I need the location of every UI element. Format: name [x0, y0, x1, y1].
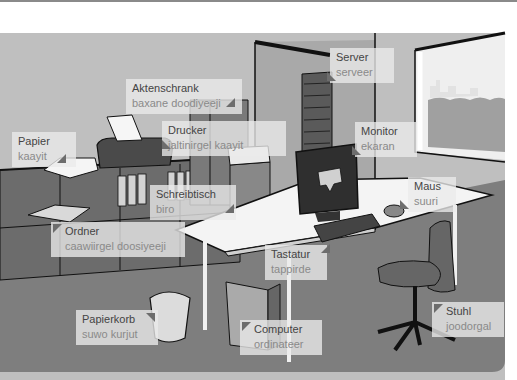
label-somali: ordinateer [246, 337, 316, 352]
label-somali: jaltinirgel kaayit [168, 138, 280, 153]
pointer-marker-icon [327, 72, 336, 81]
label-tastatur: Tastatur tappirde [265, 245, 327, 280]
label-drucker: Drucker jaltinirgel kaayit [162, 121, 286, 156]
label-german: Maus [414, 179, 450, 194]
label-ordner: Ordner caawiirgel doosiyeeji [51, 222, 185, 257]
label-german: Papier [18, 134, 70, 149]
label-somali: suwo kurjut [82, 327, 152, 342]
office-scene: Server serveer Aktenschrank baxane doodi… [0, 0, 517, 380]
label-german: Monitor [361, 124, 411, 139]
pointer-marker-icon [352, 146, 361, 155]
pointer-marker-icon [226, 98, 235, 107]
pointer-marker-icon [53, 224, 62, 233]
pointer-marker-icon [146, 313, 155, 322]
label-german: Schreibtisch [156, 187, 230, 202]
label-server: Server serveer [330, 48, 394, 83]
label-somali: joodorgal [438, 319, 498, 334]
label-aktenschrank: Aktenschrank baxane doodiyeeji [126, 79, 242, 114]
label-papier: Papier kaayit [12, 132, 76, 167]
pointer-marker-icon [225, 204, 234, 213]
label-german: Stuhl [438, 304, 498, 319]
label-somali: caawiirgel doosiyeeji [57, 239, 179, 254]
label-somali: serveer [336, 65, 388, 80]
label-somali: suuri [414, 194, 450, 209]
pointer-marker-icon [321, 244, 330, 253]
label-somali: baxane doodiyeeji [132, 96, 236, 111]
pointer-marker-icon [242, 322, 251, 331]
label-german: Drucker [168, 123, 280, 138]
label-german: Server [336, 50, 388, 65]
label-monitor: Monitor ekaran [355, 122, 417, 157]
pointer-marker-icon [400, 200, 409, 209]
label-somali: biro [156, 202, 230, 217]
label-german: Papierkorb [82, 312, 152, 327]
pointer-marker-icon [162, 140, 171, 149]
label-german: Computer [246, 322, 316, 337]
label-somali: ekaran [361, 139, 411, 154]
label-somali: tappirde [271, 262, 321, 277]
label-german: Ordner [57, 224, 179, 239]
label-german: Tastatur [271, 247, 321, 262]
pointer-marker-icon [434, 304, 443, 313]
label-german: Aktenschrank [132, 81, 236, 96]
label-schreibtisch: Schreibtisch biro [150, 185, 236, 220]
pointer-marker-icon [57, 154, 66, 163]
label-computer: Computer ordinateer [240, 320, 322, 355]
label-maus: Maus suuri [408, 177, 456, 212]
